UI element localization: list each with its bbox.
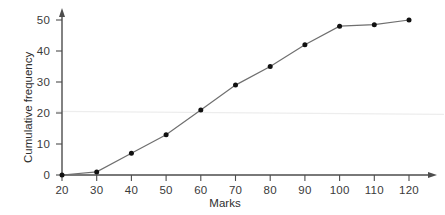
y-tick-label-50: 50 <box>30 14 50 26</box>
data-point <box>233 83 238 88</box>
data-point <box>198 107 203 112</box>
x-tick-label-40: 40 <box>125 184 138 196</box>
data-point <box>302 42 307 47</box>
x-tick-label-50: 50 <box>159 184 172 196</box>
x-tick-label-60: 60 <box>194 184 207 196</box>
x-tick-label-100: 100 <box>330 184 350 196</box>
x-tick-label-30: 30 <box>90 184 103 196</box>
y-tick-label-0: 0 <box>30 169 50 181</box>
cumulative-frequency-chart: 0 10 20 30 40 50 20 30 40 50 60 70 80 90… <box>0 0 445 215</box>
faint-horizontal-guide-line <box>56 111 444 114</box>
data-point <box>129 151 134 156</box>
data-point <box>94 169 99 174</box>
x-axis-arrow-icon <box>428 172 437 178</box>
cumulative-frequency-line <box>62 20 409 175</box>
data-point <box>407 18 412 23</box>
y-axis-ticks <box>56 20 62 175</box>
data-point <box>268 64 273 69</box>
x-axis-ticks <box>62 175 409 181</box>
data-point <box>60 173 65 178</box>
data-point <box>337 24 342 29</box>
x-tick-label-110: 110 <box>365 184 384 196</box>
x-tick-label-90: 90 <box>298 184 311 196</box>
x-tick-label-70: 70 <box>229 184 242 196</box>
data-point <box>164 132 169 137</box>
data-point-markers <box>60 18 412 178</box>
x-tick-label-80: 80 <box>264 184 277 196</box>
x-tick-label-120: 120 <box>399 184 419 196</box>
data-point <box>372 22 377 27</box>
x-tick-label-20: 20 <box>55 184 68 196</box>
plot-area <box>0 0 445 215</box>
y-axis-title: Cumulative frequency <box>22 52 34 163</box>
y-axis-arrow-icon <box>59 8 65 17</box>
x-axis-title: Marks <box>209 197 240 209</box>
